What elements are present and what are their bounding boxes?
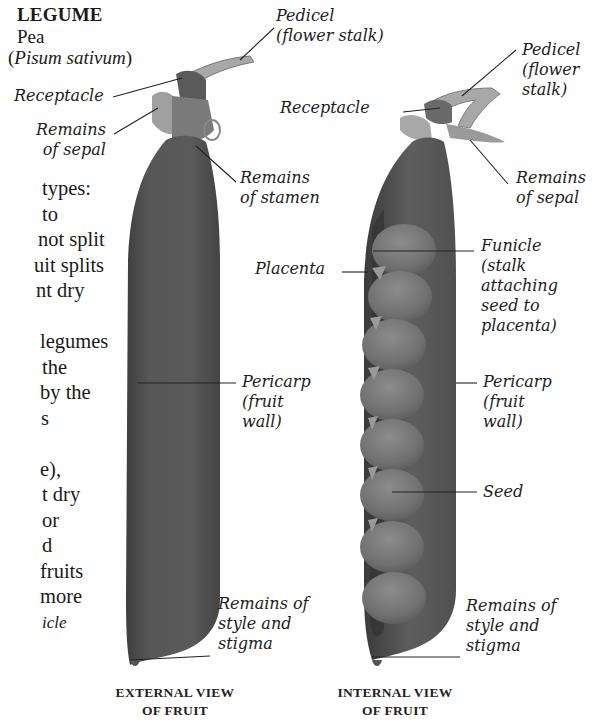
scientific-name: (Pisum sativum) xyxy=(8,47,132,69)
body-text-line: fruits xyxy=(40,559,126,585)
seed-4 xyxy=(360,369,424,421)
body-text-line: or xyxy=(42,508,126,534)
body-text-line: not split xyxy=(38,227,126,253)
label-sepal-internal: Remains of sepal xyxy=(516,168,586,208)
label-sepal-external: Remains of sepal xyxy=(36,120,106,160)
fruit-type-title: LEGUME xyxy=(17,4,103,26)
seed-7 xyxy=(360,521,424,573)
body-text-line: icle xyxy=(42,610,126,636)
body-text-line: legumes xyxy=(40,329,126,355)
body-text-line: e), xyxy=(40,457,126,483)
label-receptacle-internal: Receptacle xyxy=(280,98,370,118)
seed-2 xyxy=(368,271,432,323)
body-text-line: s xyxy=(41,406,126,432)
seed-8 xyxy=(362,572,426,624)
common-name: Pea xyxy=(17,27,44,47)
seed-6 xyxy=(360,469,424,521)
external-pod xyxy=(126,56,254,666)
body-text-line: types: xyxy=(42,176,126,202)
seed-5 xyxy=(360,419,424,471)
body-text-line: uit splits xyxy=(34,253,126,279)
body-text-line: by the xyxy=(40,380,126,406)
label-placenta: Placenta xyxy=(255,259,325,279)
label-funicle: Funicle (stalk attaching seed to placent… xyxy=(481,236,558,336)
label-pericarp-internal: Pericarp (fruit wall) xyxy=(483,372,552,432)
label-style-stigma-internal: Remains of style and stigma xyxy=(466,596,557,656)
label-seed: Seed xyxy=(483,482,523,502)
label-pericarp-external: Pericarp (fruit wall) xyxy=(242,372,311,432)
body-text-line: more xyxy=(40,584,126,610)
label-style-stigma-external: Remains of style and stigma xyxy=(218,594,309,654)
body-text-line: to xyxy=(42,202,126,228)
label-stamen-external: Remains of stamen xyxy=(240,168,320,208)
caption-internal-view: INTERNAL VIEW OF FRUIT xyxy=(320,684,470,720)
label-pedicel-external: Pedicel (flower stalk) xyxy=(276,6,384,46)
body-text-line: d xyxy=(42,533,126,559)
caption-external-view: EXTERNAL VIEW OF FRUIT xyxy=(90,684,260,720)
seed-3 xyxy=(362,319,426,371)
body-text-line: nt dry xyxy=(36,278,126,304)
label-pedicel-internal: Pedicel (flower stalk) xyxy=(522,40,580,100)
body-text-column: types: to not split uit splits nt dry le… xyxy=(0,176,126,635)
body-text-line: the xyxy=(42,355,126,381)
label-receptacle-external: Receptacle xyxy=(14,86,104,106)
body-text-line: t dry xyxy=(42,482,126,508)
